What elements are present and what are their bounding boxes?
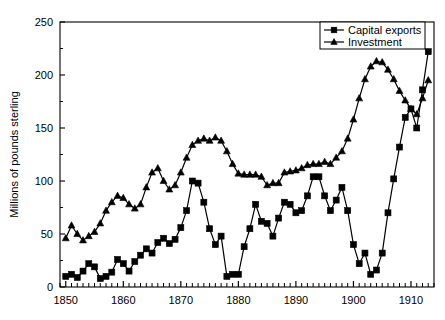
data-point-triangle xyxy=(419,95,426,101)
data-point-square xyxy=(184,208,190,214)
x-tick-label: 1890 xyxy=(284,294,308,306)
data-point-square xyxy=(327,208,333,214)
legend: Capital exportsInvestment xyxy=(320,22,425,49)
data-point-square xyxy=(120,261,126,267)
data-point-square xyxy=(80,268,86,274)
data-point-square xyxy=(97,276,103,282)
data-point-triangle xyxy=(425,77,432,83)
data-point-triangle xyxy=(223,148,230,154)
data-point-square xyxy=(195,180,201,186)
data-point-triangle xyxy=(172,181,179,187)
data-point-square xyxy=(276,215,282,221)
data-point-square xyxy=(189,178,195,184)
data-point-square xyxy=(322,193,328,199)
data-point-square xyxy=(161,235,167,241)
data-point-triangle xyxy=(390,75,397,81)
y-tick-label: 100 xyxy=(35,175,53,187)
data-point-square xyxy=(132,259,138,265)
data-point-square xyxy=(109,269,115,275)
data-point-square xyxy=(316,174,322,180)
data-point-square xyxy=(218,233,224,239)
data-point-square xyxy=(224,273,230,279)
chart-canvas: 0501001502002501850186018701880189019001… xyxy=(0,0,445,320)
data-point-square xyxy=(178,225,184,231)
data-point-square xyxy=(63,273,69,279)
data-point-square xyxy=(149,250,155,256)
y-tick-label: 150 xyxy=(35,122,53,134)
series-capital-exports xyxy=(63,49,431,282)
data-point-square xyxy=(287,201,293,207)
data-point-triangle xyxy=(85,232,92,238)
data-point-triangle xyxy=(97,220,104,226)
data-point-square xyxy=(373,267,379,273)
data-point-triangle xyxy=(189,141,196,147)
data-point-square xyxy=(126,268,132,274)
data-point-triangle xyxy=(356,95,363,101)
data-point-triangle xyxy=(183,154,190,160)
data-point-square xyxy=(281,199,287,205)
data-point-square xyxy=(143,246,149,252)
data-point-square xyxy=(391,176,397,182)
data-point-square xyxy=(368,271,374,277)
data-point-triangle xyxy=(362,75,369,81)
series-investment xyxy=(62,57,431,242)
data-point-square xyxy=(92,264,98,270)
data-point-square xyxy=(356,261,362,267)
data-point-triangle xyxy=(149,169,156,175)
data-point-square xyxy=(212,242,218,248)
x-tick-label: 1900 xyxy=(341,294,365,306)
data-point-triangle xyxy=(114,192,121,198)
data-point-square xyxy=(241,244,247,250)
data-point-square xyxy=(293,210,299,216)
x-tick-label: 1860 xyxy=(111,294,135,306)
data-point-square xyxy=(172,236,178,242)
y-tick-label: 0 xyxy=(47,281,53,293)
data-point-square xyxy=(155,239,161,245)
y-tick-label: 50 xyxy=(41,228,53,240)
data-point-triangle xyxy=(235,170,242,176)
data-point-square xyxy=(103,273,109,279)
data-point-square xyxy=(385,210,391,216)
data-point-square xyxy=(230,271,236,277)
data-point-square xyxy=(339,184,345,190)
data-point-triangle xyxy=(344,135,351,141)
data-point-triangle xyxy=(321,158,328,164)
x-tick-label: 1910 xyxy=(399,294,423,306)
data-point-triangle xyxy=(62,234,69,240)
x-axis: 1850186018701880189019001910 xyxy=(54,281,434,306)
data-point-square xyxy=(396,144,402,150)
data-point-square xyxy=(270,233,276,239)
data-point-square xyxy=(74,274,80,280)
data-point-square xyxy=(115,256,121,262)
data-point-square xyxy=(310,174,316,180)
data-point-triangle xyxy=(68,222,75,228)
data-point-square xyxy=(331,27,337,33)
data-point-square xyxy=(69,271,75,277)
data-point-square xyxy=(258,218,264,224)
data-point-square xyxy=(402,114,408,120)
x-tick-label: 1870 xyxy=(169,294,193,306)
data-point-triangle xyxy=(154,165,161,171)
x-tick-label: 1880 xyxy=(226,294,250,306)
data-point-triangle xyxy=(396,87,403,93)
data-point-triangle xyxy=(200,135,207,141)
data-point-square xyxy=(304,193,310,199)
data-point-square xyxy=(201,199,207,205)
data-point-triangle xyxy=(131,205,138,211)
data-point-square xyxy=(362,250,368,256)
legend-label: Investment xyxy=(348,36,402,48)
data-point-square xyxy=(253,201,259,207)
data-point-square xyxy=(166,241,172,247)
data-point-square xyxy=(138,252,144,258)
x-tick-label: 1850 xyxy=(54,294,78,306)
data-point-triangle xyxy=(212,134,219,140)
y-tick-label: 200 xyxy=(35,69,53,81)
data-point-square xyxy=(264,220,270,226)
data-point-triangle xyxy=(402,97,409,103)
data-point-triangle xyxy=(350,116,357,122)
data-point-triangle xyxy=(177,169,184,175)
data-point-square xyxy=(299,208,305,214)
data-point-triangle xyxy=(160,177,167,183)
data-point-square xyxy=(379,250,385,256)
data-point-square xyxy=(333,197,339,203)
